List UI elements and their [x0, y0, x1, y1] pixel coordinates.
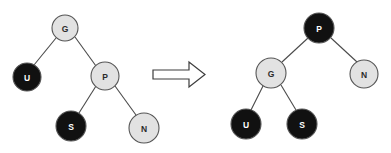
tree-node-circle[interactable]	[13, 63, 41, 91]
tree-node-circle[interactable]	[287, 109, 317, 139]
tree-edge	[251, 86, 263, 110]
diagram-canvas: GUPSN PGNUS	[0, 0, 391, 153]
tree-node[interactable]: U	[231, 109, 261, 139]
tree-node-circle[interactable]	[256, 58, 286, 88]
tree-edge	[34, 38, 56, 65]
tree-node[interactable]: N	[350, 60, 378, 88]
tree-node-circle[interactable]	[350, 60, 378, 88]
tree-node[interactable]: G	[52, 15, 78, 41]
right-arrow-icon	[153, 62, 205, 87]
tree-node[interactable]: P	[91, 62, 119, 90]
tree-node-circle[interactable]	[231, 109, 261, 139]
before-tree: GUPSN	[13, 15, 159, 143]
tree-node[interactable]: N	[129, 113, 159, 143]
tree-node-circle[interactable]	[52, 15, 78, 41]
right-arrow-shape	[153, 62, 205, 87]
after-tree: PGNUS	[231, 13, 378, 139]
tree-edge	[79, 86, 96, 113]
tree-edge	[281, 85, 296, 110]
tree-node[interactable]: U	[13, 63, 41, 91]
tree-node-circle[interactable]	[56, 111, 86, 141]
tree-node-circle[interactable]	[304, 13, 334, 43]
tree-node-circle[interactable]	[129, 113, 159, 143]
tree-edge	[282, 38, 308, 62]
tree-edge	[331, 38, 357, 62]
tree-node[interactable]: G	[256, 58, 286, 88]
tree-node[interactable]: S	[56, 111, 86, 141]
tree-edge	[115, 86, 136, 115]
tree-node[interactable]: P	[304, 13, 334, 43]
tree-node[interactable]: S	[287, 109, 317, 139]
tree-rotation-diagram: GUPSN PGNUS	[0, 0, 391, 153]
tree-node-circle[interactable]	[91, 62, 119, 90]
tree-edge	[75, 37, 96, 66]
